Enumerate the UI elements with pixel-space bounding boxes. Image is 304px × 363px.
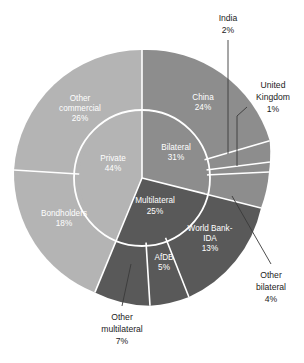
svg-text:World Bank-: World Bank- <box>188 224 233 233</box>
svg-text:31%: 31% <box>168 153 184 162</box>
svg-text:7%: 7% <box>116 336 129 346</box>
svg-text:Multilateral: Multilateral <box>135 196 175 205</box>
svg-text:United: United <box>261 80 286 90</box>
svg-text:25%: 25% <box>147 207 163 216</box>
svg-text:2%: 2% <box>222 25 235 35</box>
svg-text:China: China <box>192 93 214 102</box>
label-china: China 24% <box>192 93 214 112</box>
svg-text:44%: 44% <box>105 164 121 173</box>
pie-chart-svg: Private 44% Bilateral 31% Multilateral 2… <box>0 0 304 363</box>
svg-text:multilateral: multilateral <box>101 324 143 334</box>
svg-text:18%: 18% <box>56 219 72 228</box>
callout-other-multilateral: Other multilateral 7% <box>101 312 143 346</box>
callout-other-bilateral: Other bilateral 4% <box>256 270 286 304</box>
svg-text:Kingdom: Kingdom <box>256 92 290 102</box>
svg-text:4%: 4% <box>265 294 278 304</box>
svg-text:Private: Private <box>100 154 126 163</box>
svg-text:Other: Other <box>260 270 282 280</box>
svg-text:5%: 5% <box>158 263 170 272</box>
svg-text:1%: 1% <box>267 104 280 114</box>
donut-chart-container: Private 44% Bilateral 31% Multilateral 2… <box>0 0 304 363</box>
svg-text:Other: Other <box>111 312 133 322</box>
svg-text:India: India <box>219 13 238 23</box>
svg-text:26%: 26% <box>72 114 88 123</box>
svg-text:Bondholders: Bondholders <box>41 209 87 218</box>
callout-india: India 2% <box>219 13 238 35</box>
svg-text:bilateral: bilateral <box>256 282 286 292</box>
svg-text:13%: 13% <box>202 244 218 253</box>
svg-text:AfDB: AfDB <box>154 253 174 262</box>
svg-text:Bilateral: Bilateral <box>161 143 191 152</box>
callout-united-kingdom: United Kingdom 1% <box>256 80 290 114</box>
svg-text:Other: Other <box>70 94 91 103</box>
svg-text:24%: 24% <box>195 103 211 112</box>
svg-text:IDA: IDA <box>203 234 217 243</box>
svg-text:commercial: commercial <box>59 104 101 113</box>
